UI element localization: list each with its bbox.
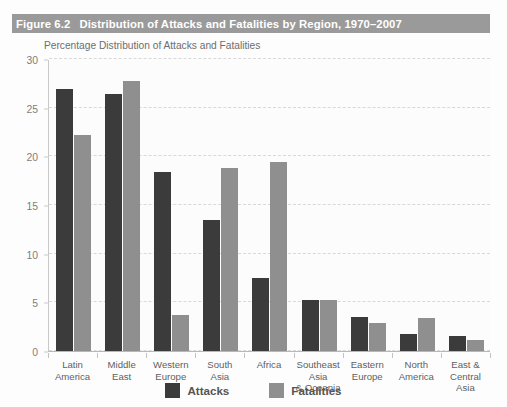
x-axis-separator (392, 353, 393, 358)
bar-group (245, 60, 294, 351)
bar-group (442, 60, 491, 351)
bar-attacks (400, 334, 417, 351)
plot-area (48, 60, 490, 352)
bar-attacks (56, 89, 73, 351)
y-tick-label-10: 10 (26, 249, 38, 260)
x-axis-separator (294, 353, 295, 358)
x-axis-label-line: America (392, 371, 441, 383)
x-axis-label-line: Eastern (343, 359, 392, 371)
x-axis-label-line: Latin (48, 359, 97, 371)
chart-subtitle: Percentage Distribution of Attacks and F… (44, 40, 260, 51)
legend-label: Fatalities (291, 384, 341, 397)
x-axis-label: Africa (244, 359, 293, 371)
bar-attacks (105, 94, 122, 351)
chart-legend: AttacksFatalities (0, 383, 507, 398)
bar-group (147, 60, 196, 351)
gridline-30 (49, 58, 490, 59)
x-axis-separator (48, 353, 49, 358)
x-axis-label-line: Asia (195, 371, 244, 383)
fatalities-swatch (269, 383, 284, 398)
x-axis-label-line: East & (441, 359, 490, 371)
figure-title-band: Figure 6.2 Distribution of Attacks and F… (12, 14, 490, 33)
bar-fatalities (123, 81, 140, 351)
figure-panel: Figure 6.2 Distribution of Attacks and F… (0, 0, 507, 407)
x-axis-label: LatinAmerica (48, 359, 97, 382)
x-axis-separator (195, 353, 196, 358)
x-axis-separator (490, 353, 491, 358)
x-axis-label: SouthAsia (195, 359, 244, 382)
bar-attacks (449, 336, 466, 351)
bar-group (393, 60, 442, 351)
x-axis-label-line: East (97, 371, 146, 383)
bar-group (344, 60, 393, 351)
legend-item-fatalities[interactable]: Fatalities (269, 383, 341, 398)
x-axis-label-line: Western (146, 359, 195, 371)
bar-attacks (302, 300, 319, 351)
bar-fatalities (74, 135, 91, 351)
x-axis-label-line: Middle (97, 359, 146, 371)
x-axis-label-line: Europe (343, 371, 392, 383)
bar-group (98, 60, 147, 351)
x-axis-label-line: Southeast (294, 359, 343, 371)
x-axis-separator (441, 353, 442, 358)
y-tick-label-5: 5 (32, 298, 38, 309)
y-tick-label-20: 20 (26, 152, 38, 163)
figure-number: Figure 6.2 (12, 18, 70, 30)
x-axis-label: WesternEurope (146, 359, 195, 382)
x-axis-label-line: America (48, 371, 97, 383)
y-axis: 051015202530 (0, 60, 44, 352)
x-axis-label-line: North (392, 359, 441, 371)
attacks-swatch (165, 383, 180, 398)
bar-fatalities (172, 315, 189, 351)
figure-title: Distribution of Attacks and Fatalities b… (70, 18, 402, 30)
x-axis-label: EasternEurope (343, 359, 392, 382)
x-axis-separator (244, 353, 245, 358)
x-axis-label-line: South (195, 359, 244, 371)
bar-attacks (252, 278, 269, 351)
y-tick-label-15: 15 (26, 201, 38, 212)
x-axis-separator (146, 353, 147, 358)
bar-fatalities (467, 340, 484, 351)
bar-fatalities (418, 318, 435, 351)
bar-fatalities (270, 162, 287, 351)
y-tick-label-30: 30 (26, 55, 38, 66)
bar-fatalities (221, 168, 238, 351)
x-axis-label: MiddleEast (97, 359, 146, 382)
bar-group (196, 60, 245, 351)
x-axis-label-line: Asia (294, 371, 343, 383)
bar-series-container (49, 60, 490, 351)
bar-attacks (351, 317, 368, 351)
legend-label: Attacks (187, 384, 229, 397)
bar-attacks (203, 220, 220, 351)
x-axis-label-line: Europe (146, 371, 195, 383)
x-axis-separator (97, 353, 98, 358)
x-axis-label: NorthAmerica (392, 359, 441, 382)
bar-attacks (154, 172, 171, 351)
bar-group (49, 60, 98, 351)
x-axis-label-line: Africa (244, 359, 293, 371)
x-axis-separator (343, 353, 344, 358)
bar-group (295, 60, 344, 351)
bar-fatalities (320, 300, 337, 351)
x-axis-label-line: Central (441, 371, 490, 383)
bar-fatalities (369, 323, 386, 351)
legend-item-attacks[interactable]: Attacks (165, 383, 229, 398)
y-tick-label-0: 0 (32, 347, 38, 358)
y-tick-label-25: 25 (26, 103, 38, 114)
